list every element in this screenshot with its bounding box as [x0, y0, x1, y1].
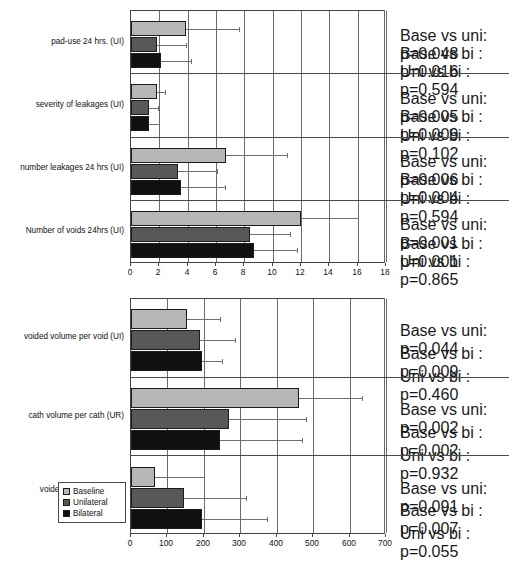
error-bar-cap	[297, 248, 298, 253]
error-bar-cap	[191, 59, 192, 64]
bar-unilateral	[131, 37, 157, 52]
error-bar-cap	[306, 417, 307, 422]
legend-swatch-icon	[63, 499, 70, 506]
error-bar-cap	[217, 169, 218, 174]
error-bar-line	[161, 61, 191, 62]
category-label: number leakages 24 hrs (UI)	[2, 163, 124, 173]
bar-unilateral	[131, 409, 229, 429]
error-bar-cap	[225, 185, 226, 190]
tick-label: 4	[172, 267, 202, 277]
bar-bilateral	[131, 180, 181, 195]
error-bar-line	[149, 108, 158, 109]
legend-item-bilateral: Bilateral	[63, 508, 120, 519]
error-bar-line	[149, 124, 159, 125]
tick-mark	[130, 534, 131, 537]
bar-bilateral	[131, 116, 149, 131]
tick-label: 12	[285, 267, 315, 277]
bar-bilateral	[131, 351, 202, 371]
error-bar-line	[178, 171, 217, 172]
bar-baseline	[131, 211, 301, 226]
error-bar-line	[229, 419, 306, 420]
bar-unilateral	[131, 164, 178, 179]
error-bar-cap	[287, 153, 288, 158]
gridline	[350, 299, 351, 533]
figure-root: pad-use 24 hrs. (UI)Base vs uni: p=0.048…	[0, 0, 511, 563]
bar-bilateral	[131, 53, 161, 68]
legend-swatch-icon	[63, 488, 70, 495]
legend: BaselineUnilateralBilateral	[58, 482, 126, 523]
category-label: Number of voids 24hrs (UI)	[2, 226, 124, 236]
group-separator	[130, 455, 509, 456]
bar-baseline	[131, 388, 299, 408]
error-bar-cap	[186, 43, 187, 48]
error-bar-line	[186, 29, 239, 30]
error-bar-cap	[362, 396, 363, 401]
error-bar-line	[254, 250, 297, 251]
error-bar-line	[187, 319, 220, 320]
category-label: voided volume per void (UI)	[2, 332, 124, 342]
tick-label: 0	[115, 538, 145, 548]
legend-item-baseline: Baseline	[63, 486, 120, 497]
bar-baseline	[131, 309, 187, 329]
error-bar-cap	[235, 338, 236, 343]
tick-mark	[203, 534, 204, 537]
group-separator	[130, 377, 509, 378]
legend-swatch-icon	[63, 510, 70, 517]
error-bar-cap	[159, 122, 160, 127]
plot-area	[130, 298, 385, 534]
category-label: severity of leakages (UI)	[2, 100, 124, 110]
category-label: pad-use 24 hrs. (UI)	[2, 37, 124, 47]
x-axis-ticks: 0100200300400500600700	[0, 534, 511, 548]
bar-unilateral	[131, 488, 184, 508]
chart-panel-top: pad-use 24 hrs. (UI)Base vs uni: p=0.048…	[0, 0, 511, 290]
legend-label: Baseline	[73, 487, 104, 496]
tick-label: 2	[143, 267, 173, 277]
error-bar-cap	[358, 216, 359, 221]
bar-bilateral	[131, 430, 220, 450]
tick-mark	[243, 263, 244, 266]
tick-label: 18	[370, 267, 400, 277]
tick-mark	[187, 263, 188, 266]
tick-label: 100	[151, 538, 181, 548]
error-bar-line	[155, 477, 204, 478]
error-bar-cap	[158, 106, 159, 111]
error-bar-line	[226, 155, 287, 156]
error-bar-line	[200, 340, 235, 341]
gridline	[277, 299, 278, 533]
bar-baseline	[131, 148, 226, 163]
error-bar-cap	[222, 359, 223, 364]
error-bar-line	[299, 398, 362, 399]
tick-mark	[300, 263, 301, 266]
tick-label: 400	[261, 538, 291, 548]
tick-label: 6	[200, 267, 230, 277]
bar-baseline	[131, 467, 155, 487]
chart-panel-bottom: voided volume per void (UI)Base vs uni: …	[0, 292, 511, 563]
error-bar-cap	[204, 475, 205, 480]
pvalue-label: Uni vs bi : p=0.460	[400, 368, 511, 404]
bar-bilateral	[131, 243, 254, 258]
error-bar-line	[181, 187, 225, 188]
bar-baseline	[131, 84, 157, 99]
tick-mark	[328, 263, 329, 266]
error-bar-cap	[220, 317, 221, 322]
tick-mark	[272, 263, 273, 266]
tick-mark	[385, 263, 386, 266]
pvalue-label: Uni vs bi : p=0.932	[400, 447, 511, 483]
error-bar-line	[202, 361, 222, 362]
legend-label: Bilateral	[73, 509, 103, 518]
error-bar-line	[157, 92, 165, 93]
error-bar-line	[184, 498, 246, 499]
tick-mark	[312, 534, 313, 537]
tick-mark	[357, 263, 358, 266]
tick-label: 16	[342, 267, 372, 277]
error-bar-line	[301, 218, 358, 219]
tick-mark	[276, 534, 277, 537]
error-bar-line	[220, 440, 302, 441]
error-bar-line	[202, 519, 267, 520]
tick-label: 0	[115, 267, 145, 277]
legend-item-unilateral: Unilateral	[63, 497, 120, 508]
gridline	[313, 299, 314, 533]
tick-mark	[385, 534, 386, 537]
tick-mark	[158, 263, 159, 266]
error-bar-line	[250, 234, 290, 235]
